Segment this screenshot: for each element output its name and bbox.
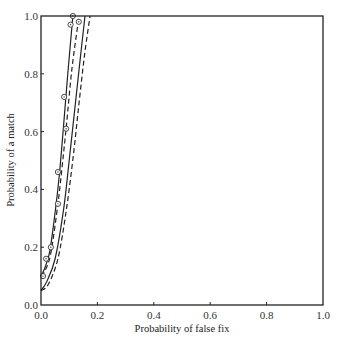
- curves: [41, 16, 90, 291]
- curve-solid-2: [41, 16, 85, 291]
- y-tick-label: 0.4: [24, 183, 38, 195]
- roc-chart: 0.00.20.40.60.81.00.00.20.40.60.81.0 Pro…: [0, 0, 340, 344]
- x-tick-label: 0.4: [147, 309, 161, 321]
- y-tick-label: 0.8: [24, 68, 38, 80]
- y-tick-label: 0.6: [24, 126, 38, 138]
- x-tick-label: 0.2: [91, 309, 105, 321]
- axis-ticks: 0.00.20.40.60.81.00.00.20.40.60.81.0: [24, 10, 330, 321]
- x-tick-label: 0.8: [260, 309, 274, 321]
- plot-frame: [41, 16, 323, 305]
- x-tick-label: 1.0: [316, 309, 330, 321]
- x-axis-label: Probability of false fix: [135, 323, 231, 334]
- y-tick-label: 1.0: [24, 10, 38, 22]
- x-tick-label: 0.6: [203, 309, 217, 321]
- data-markers: [40, 13, 81, 278]
- y-tick-label: 0.2: [24, 241, 38, 253]
- curve-dashed-2: [41, 16, 90, 291]
- y-tick-label: 0.0: [24, 299, 38, 311]
- curve-solid-1: [41, 16, 73, 276]
- y-axis-label: Probability of a match: [5, 112, 16, 206]
- curve-dashed-1: [41, 16, 79, 276]
